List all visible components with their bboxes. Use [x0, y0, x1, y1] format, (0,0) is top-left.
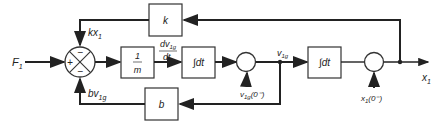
- label-x1-output: x1: [421, 72, 431, 85]
- label-kx1: kx1: [88, 27, 102, 40]
- svg-text:dt: dt: [163, 52, 171, 62]
- plus-sign: +: [67, 57, 73, 68]
- input-f1: F1: [12, 56, 64, 70]
- minus-sign-bottom: −: [77, 66, 83, 77]
- label-bv1g: bv1g: [88, 88, 106, 102]
- svg-text:b: b: [159, 99, 165, 110]
- label-v1g: v1g: [277, 48, 289, 59]
- svg-text:dv1g: dv1g: [160, 39, 177, 50]
- block-integrator-1: ∫dt: [182, 47, 215, 78]
- summing-junction: + − −: [65, 47, 95, 77]
- block-diagram: F1 + − − 1 m dv1g dt ∫dt v1g(0⁻): [0, 0, 447, 127]
- svg-text:x1(0⁻): x1(0⁻): [360, 94, 382, 104]
- adder-x1-initial: x1(0⁻): [360, 53, 384, 105]
- svg-text:v1g(0⁻): v1g(0⁻): [240, 90, 265, 100]
- svg-text:∫dt: ∫dt: [318, 57, 331, 68]
- block-inverse-mass: 1 m: [121, 47, 154, 78]
- label-dv1g-dt: dv1g dt: [159, 39, 177, 62]
- svg-text:m: m: [134, 65, 142, 75]
- minus-sign-top: −: [77, 47, 83, 58]
- block-k: k: [149, 4, 182, 36]
- block-integrator-2: ∫dt: [308, 47, 341, 78]
- block-b: b: [145, 88, 178, 120]
- svg-text:F1: F1: [12, 56, 23, 70]
- svg-text:∫dt: ∫dt: [192, 57, 205, 68]
- svg-text:1: 1: [135, 51, 140, 61]
- adder-v1g-initial: v1g(0⁻): [237, 53, 265, 101]
